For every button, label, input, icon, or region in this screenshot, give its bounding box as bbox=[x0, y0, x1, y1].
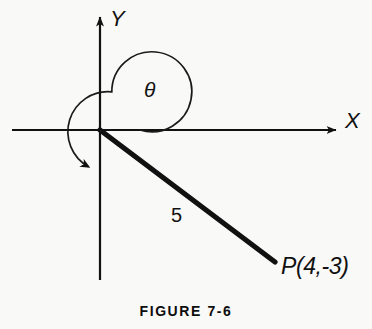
figure-caption: FIGURE 7-6 bbox=[0, 303, 372, 319]
coordinate-diagram bbox=[0, 0, 372, 329]
theta-angle-label: θ bbox=[144, 79, 155, 100]
x-axis-label: X bbox=[345, 110, 360, 132]
figure-container: Y X θ 5 P(4,-3) FIGURE 7-6 bbox=[0, 0, 372, 329]
ray-length-label: 5 bbox=[171, 205, 182, 225]
terminal-ray bbox=[100, 130, 275, 262]
point-p-label: P(4,-3) bbox=[281, 255, 349, 278]
y-axis-label: Y bbox=[110, 8, 125, 30]
